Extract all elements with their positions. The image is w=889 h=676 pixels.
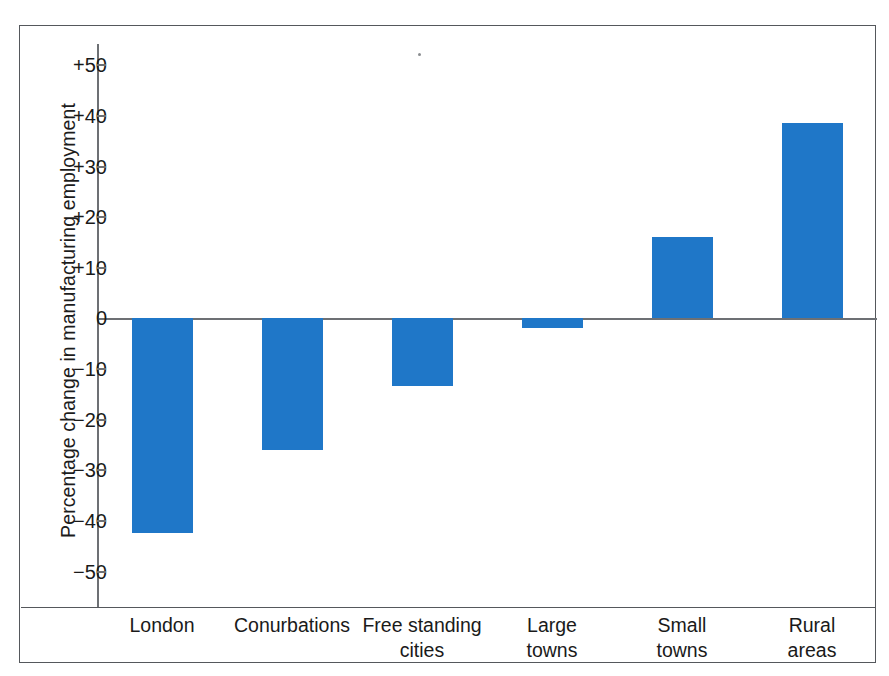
y-tick-mark-20: [97, 216, 106, 217]
y-tick-mark-m40: [97, 520, 106, 521]
y-tick-m50: −50: [15, 560, 107, 584]
y-tick-m30: −30: [15, 458, 107, 482]
scan-speck: [418, 53, 421, 56]
category-label-small-towns: Small towns: [617, 611, 747, 663]
y-tick-40: +40: [15, 104, 107, 128]
y-tick-m40: −40: [15, 509, 107, 533]
y-tick-mark-30: [97, 166, 106, 167]
y-tick-mark-m20: [97, 419, 106, 420]
category-label-large-towns: Large towns: [487, 611, 617, 663]
y-tick-mark-m50: [97, 571, 106, 572]
y-tick-mark-10: [97, 267, 106, 268]
y-tick-30: +30: [15, 155, 107, 179]
label-band-divider: [21, 607, 876, 608]
y-tick-mark-m10: [97, 368, 106, 369]
category-label-free-standing-cities: Free standing cities: [357, 611, 487, 663]
y-tick-mark-m30: [97, 469, 106, 470]
bar-conurbations: [262, 318, 323, 450]
y-tick-20: +20: [15, 205, 107, 229]
y-tick-mark-40: [97, 115, 106, 116]
y-tick-50: +50: [15, 53, 107, 77]
chart-frame: Percentage change in manufacturing emplo…: [19, 25, 876, 663]
plot-area: +50 +40 +30 +20 +10 0 −10 −20 −30 −40 −5…: [97, 44, 877, 607]
category-label-rural-areas: Rural areas: [747, 611, 877, 663]
bar-rural-areas: [782, 123, 843, 318]
bar-small-towns: [652, 237, 713, 318]
chart-page: Percentage change in manufacturing emplo…: [0, 0, 889, 676]
y-tick-mark-50: [97, 64, 106, 65]
bar-london: [132, 318, 193, 533]
y-tick-0: 0: [15, 306, 107, 330]
y-tick-m10: −10: [15, 357, 107, 381]
category-label-conurbations: Conurbations: [227, 611, 357, 663]
category-label-band: London Conurbations Free standing cities…: [97, 611, 877, 663]
y-tick-m20: −20: [15, 408, 107, 432]
category-label-london: London: [97, 611, 227, 663]
zero-baseline: [97, 318, 877, 320]
bar-large-towns: [522, 318, 583, 328]
bar-free-standing-cities: [392, 318, 453, 386]
y-tick-10: +10: [15, 256, 107, 280]
